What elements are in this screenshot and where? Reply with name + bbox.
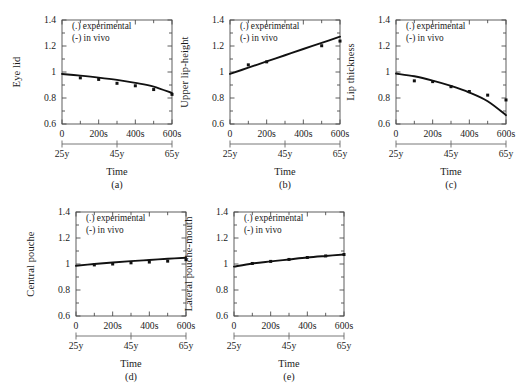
y-tick-label: 1.2 [46,232,70,243]
y-tick-label: 0.8 [32,92,56,103]
subplot-d: 0.60.811.21.40200s400s600s25y45y65yCentr… [20,196,194,390]
data-point-experimental [93,263,96,266]
y-tick-label: 1.2 [32,40,56,51]
y-axis-title: Eye lid [10,17,24,127]
legend-entry-in-vivo: (-) in vivo [244,225,303,237]
data-point-experimental [505,98,508,101]
data-point-experimental [320,44,323,47]
legend-entry-experimental: (.) experimental [244,213,303,225]
y-tick-label: 0.8 [200,92,224,103]
age-tick-label: 45y [269,340,309,351]
data-point-experimental [269,260,272,263]
x-axis-title: Time [225,166,345,177]
data-point-experimental [431,80,434,83]
x-tick-label: 400s [287,320,327,331]
y-tick-label: 1 [200,66,224,77]
data-point-experimental [288,258,291,261]
legend-entry-in-vivo: (-) in vivo [240,33,299,45]
data-point-experimental [148,261,151,264]
x-tick-label: 200s [413,128,453,139]
y-tick-label: 1.2 [366,40,390,51]
legend: (.) experimental(-) in vivo [406,21,465,44]
legend-entry-experimental: (.) experimental [72,21,131,33]
x-tick-label: 600s [486,128,522,139]
y-tick-label: 1.4 [366,14,390,25]
x-tick-label: 0 [376,128,416,139]
x-tick-label: 400s [129,320,169,331]
y-tick-label: 1 [366,66,390,77]
x-tick-label: 0 [214,320,254,331]
age-tick-label: 25y [214,340,254,351]
y-tick-label: 0.6 [204,310,228,321]
subplot-label-b: (b) [225,179,345,190]
figure-canvas: 0.60.811.21.40200s400s600s25y45y65yEye l… [0,0,522,390]
data-point-experimental [486,94,489,97]
y-tick-label: 1.4 [46,206,70,217]
y-tick-label: 1.4 [204,206,228,217]
x-tick-label: 0 [56,320,96,331]
legend: (.) experimental(-) in vivo [86,213,145,236]
y-tick-label: 1 [32,66,56,77]
subplot-label-c: (c) [391,179,511,190]
legend-entry-in-vivo: (-) in vivo [406,33,465,45]
age-tick-label: 25y [42,148,82,159]
data-point-experimental [324,254,327,257]
subplot-a: 0.60.811.21.40200s400s600s25y45y65yEye l… [6,4,180,199]
data-point-experimental [450,85,453,88]
y-tick-label: 1.2 [204,232,228,243]
x-axis-title: Time [229,358,349,369]
y-axis-title: Central pouche [24,209,38,319]
legend: (.) experimental(-) in vivo [240,21,299,44]
legend: (.) experimental(-) in vivo [72,21,131,44]
y-axis-title: Upper lip-height [178,17,192,127]
y-tick-label: 1.4 [32,14,56,25]
data-point-experimental [413,79,416,82]
age-tick-label: 65y [324,340,364,351]
age-tick-label: 25y [210,148,250,159]
y-tick-label: 0.8 [204,284,228,295]
subplot-e: 0.60.811.21.40200s400s600s25y45y65yLater… [178,196,352,390]
age-tick-label: 45y [111,340,151,351]
y-axis-title: Lip thickness [344,17,358,127]
data-point-experimental [152,88,155,91]
age-tick-label: 25y [376,148,416,159]
y-tick-label: 0.6 [200,118,224,129]
subplot-c: 0.60.811.21.40200s400s600s25y45y65yLip t… [340,4,514,199]
y-axis-title: Lateral pouche-mouth [182,209,196,319]
data-point-experimental [111,263,114,266]
legend-entry-experimental: (.) experimental [240,21,299,33]
legend: (.) experimental(-) in vivo [244,213,303,236]
y-tick-label: 0.8 [46,284,70,295]
data-point-experimental [79,76,82,79]
age-tick-label: 45y [431,148,471,159]
data-point-experimental [116,82,119,85]
x-tick-label: 400s [115,128,155,139]
subplot-label-a: (a) [57,179,177,190]
x-tick-label: 0 [210,128,250,139]
x-tick-label: 600s [324,320,364,331]
y-tick-label: 1 [46,258,70,269]
x-tick-label: 200s [79,128,119,139]
legend-entry-experimental: (.) experimental [86,213,145,225]
x-tick-label: 200s [93,320,133,331]
data-point-experimental [97,78,100,81]
subplot-label-d: (d) [71,371,191,382]
data-point-experimental [166,260,169,263]
legend-entry-in-vivo: (-) in vivo [86,225,145,237]
x-tick-label: 200s [247,128,287,139]
series-line-in-vivo [396,74,506,116]
legend-entry-in-vivo: (-) in vivo [72,33,131,45]
data-point-experimental [251,262,254,265]
age-tick-label: 65y [486,148,522,159]
x-tick-label: 400s [283,128,323,139]
age-tick-label: 25y [56,340,96,351]
subplot-b: 0.60.811.21.40200s400s600s25y45y65yUpper… [174,4,348,199]
age-tick-label: 45y [97,148,137,159]
data-point-experimental [247,63,250,66]
data-point-experimental [468,90,471,93]
age-tick-label: 45y [265,148,305,159]
data-point-experimental [265,60,268,63]
legend-entry-experimental: (.) experimental [406,21,465,33]
x-tick-label: 200s [251,320,291,331]
y-tick-label: 1 [204,258,228,269]
